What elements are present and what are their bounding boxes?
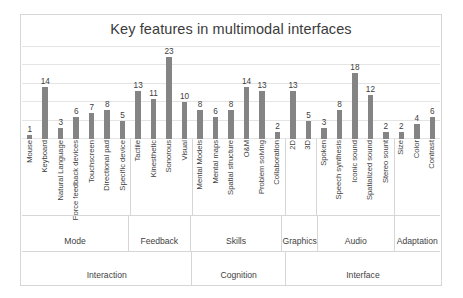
- category-label-slot: Stereo sount: [378, 139, 393, 215]
- bar[interactable]: [414, 124, 420, 139]
- bar[interactable]: [166, 57, 172, 139]
- bar[interactable]: [368, 95, 374, 139]
- group-cell: Interface: [285, 252, 440, 286]
- category-label: Size: [397, 140, 405, 155]
- category-label: Mental Models: [196, 140, 204, 189]
- bar[interactable]: [290, 91, 296, 139]
- bar[interactable]: [104, 110, 110, 139]
- group-label: Adaptation: [397, 236, 438, 246]
- bar[interactable]: [321, 128, 327, 139]
- category-label-slot: Color: [409, 139, 424, 215]
- category-label-slot: Mental Models: [192, 139, 207, 215]
- category-axis-labels: MouseKeyboardNatural LanguageForce feedb…: [22, 139, 440, 215]
- category-label: Collaboration: [273, 140, 281, 185]
- category-label: Natural Language: [57, 140, 65, 200]
- bar-slot: 2: [270, 47, 285, 139]
- bar[interactable]: [275, 132, 281, 139]
- category-label-slot: Problem solving: [254, 139, 269, 215]
- bar-value-label: 2: [384, 122, 389, 131]
- category-label: Speech synthesis: [335, 140, 343, 200]
- bar-slot: 8: [332, 47, 347, 139]
- bar[interactable]: [182, 102, 188, 139]
- bar-slot: 5: [301, 47, 316, 139]
- bar-slot: 3: [316, 47, 331, 139]
- bar-value-label: 5: [306, 111, 311, 120]
- bar-slot: 3: [53, 47, 68, 139]
- bar[interactable]: [89, 113, 95, 139]
- category-label-slot: Spatialized sound: [363, 139, 378, 215]
- bar-value-label: 8: [198, 100, 203, 109]
- bar-value-label: 23: [165, 47, 174, 56]
- category-label-slot: Speech synthesis: [332, 139, 347, 215]
- group-cell: Graphics: [281, 216, 316, 252]
- bar[interactable]: [42, 87, 48, 139]
- bar-slot: 2: [378, 47, 393, 139]
- group-cell: Cognition: [191, 252, 284, 286]
- bar-slot: 13: [285, 47, 300, 139]
- bar-value-label: 14: [242, 77, 251, 86]
- category-label-slot: Directional pad: [99, 139, 114, 215]
- category-label-slot: Force feedback devices: [68, 139, 83, 215]
- bar[interactable]: [244, 87, 250, 139]
- category-label: Mouse: [26, 140, 34, 163]
- bar[interactable]: [337, 110, 343, 139]
- category-label-slot: Contrast: [425, 139, 440, 215]
- bar[interactable]: [306, 121, 312, 139]
- category-label: Contrast: [428, 140, 436, 169]
- category-label-slot: Collaboration: [270, 139, 285, 215]
- bar-slot: 18: [347, 47, 362, 139]
- bar-series: 1143678513112310868141321353818122246: [22, 47, 440, 139]
- bar[interactable]: [213, 117, 219, 139]
- bar-value-label: 13: [257, 81, 266, 90]
- category-label: Sonorous: [165, 140, 173, 173]
- bar-value-label: 13: [134, 81, 143, 90]
- bar[interactable]: [73, 117, 79, 139]
- bar-value-label: 6: [74, 107, 79, 116]
- category-label-slot: Spatial structure: [223, 139, 238, 215]
- bar-value-label: 8: [105, 100, 110, 109]
- bar-slot: 23: [161, 47, 176, 139]
- category-label: Specific device: [119, 140, 127, 191]
- category-label: Spatial structure: [227, 140, 235, 195]
- bar-slot: 6: [425, 47, 440, 139]
- chart-frame: Key features in multimodal interfaces 11…: [20, 14, 442, 286]
- bar-value-label: 5: [120, 111, 125, 120]
- bar-value-label: 6: [430, 107, 435, 116]
- bar-slot: 13: [130, 47, 145, 139]
- bar-slot: 10: [177, 47, 192, 139]
- group-band-level-1: ModeFeedbackSkillsGraphicsAudioAdaptatio…: [22, 215, 440, 252]
- bar[interactable]: [58, 128, 64, 139]
- bar[interactable]: [352, 73, 358, 139]
- group-label: Graphics: [282, 236, 316, 246]
- bar[interactable]: [383, 132, 389, 139]
- category-label-slot: Tactile: [130, 139, 145, 215]
- bar-value-label: 3: [322, 118, 327, 127]
- bar-value-label: 4: [415, 114, 420, 123]
- category-label: Spoken: [320, 140, 328, 166]
- bar[interactable]: [135, 91, 141, 139]
- group-label: Mode: [64, 236, 86, 246]
- bar[interactable]: [430, 117, 436, 139]
- bar[interactable]: [151, 99, 157, 139]
- bar[interactable]: [197, 110, 203, 139]
- bar[interactable]: [120, 121, 126, 139]
- category-label: Touchscreen: [88, 140, 96, 183]
- plot-area: 1143678513112310868141321353818122246: [22, 47, 440, 139]
- category-label-slot: Specific device: [115, 139, 130, 215]
- bar[interactable]: [259, 91, 265, 139]
- bar[interactable]: [228, 110, 234, 139]
- bar-value-label: 14: [41, 77, 50, 86]
- category-label: Stereo sount: [382, 140, 390, 183]
- bar-value-label: 2: [399, 122, 404, 131]
- category-label-slot: Iconic sound: [347, 139, 362, 215]
- category-label: Mental maps: [212, 140, 220, 183]
- group-label: Feedback: [140, 236, 178, 246]
- group-cell: Mode: [22, 216, 128, 252]
- bar-slot: 1: [22, 47, 37, 139]
- category-label: Iconic sound: [351, 140, 359, 183]
- category-label: Kinesthetic: [150, 140, 158, 177]
- category-label: Directional pad: [103, 140, 111, 191]
- category-label: Visual: [181, 140, 189, 161]
- bar-value-label: 6: [213, 107, 218, 116]
- bar[interactable]: [399, 132, 405, 139]
